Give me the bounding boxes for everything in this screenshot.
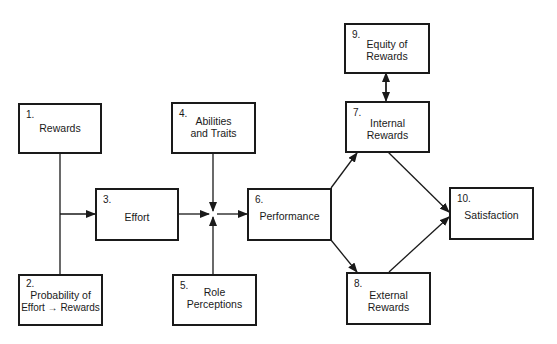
node-abilities-traits: 4. Abilities and Traits <box>171 102 256 154</box>
node-effort: 3. Effort <box>95 188 179 241</box>
arrow-external-to-satisfaction <box>389 217 449 272</box>
node-number: 10. <box>457 193 471 204</box>
node-internal-rewards: 7. Internal Rewards <box>345 101 430 153</box>
node-equity-of-rewards: 9. Equity of Rewards <box>344 23 430 74</box>
node-label-line2: Rewards <box>346 50 428 62</box>
node-label-line2: Perceptions <box>174 298 255 310</box>
node-label: Performance <box>249 210 330 222</box>
arrow-internal-to-satisfaction <box>388 152 449 212</box>
node-label-line1: External <box>348 289 429 301</box>
node-label-line2: Effort → Rewards <box>20 302 101 314</box>
node-label-line1: Abilities <box>173 115 254 127</box>
node-performance: 6. Performance <box>247 188 332 241</box>
node-label-line2: Rewards <box>347 129 428 141</box>
node-probability-effort-rewards: 2. Probability of Effort → Rewards <box>18 274 103 326</box>
node-satisfaction: 10. Satisfaction <box>449 187 534 240</box>
node-label: Rewards <box>20 122 100 134</box>
node-number: 8. <box>354 278 362 289</box>
node-number: 6. <box>255 194 263 205</box>
node-label-line1: Internal <box>347 117 428 129</box>
node-label-line2: and Traits <box>173 127 254 139</box>
arrow-performance-to-internal <box>331 153 357 188</box>
node-label-line1: Probability of <box>20 289 101 301</box>
node-number: 2. <box>26 278 34 289</box>
node-label-line1: Equity of <box>346 38 428 50</box>
arrow-performance-to-external <box>331 240 357 272</box>
node-label-line1: Role <box>174 286 255 298</box>
node-label-line2: Rewards <box>348 301 429 313</box>
node-number: 1. <box>26 109 34 120</box>
node-rewards: 1. Rewards <box>18 103 102 154</box>
node-label: Effort <box>97 211 177 223</box>
node-number: 3. <box>103 194 111 205</box>
node-label: Satisfaction <box>451 209 532 221</box>
node-role-perceptions: 5. Role Perceptions <box>172 274 257 326</box>
node-external-rewards: 8. External Rewards <box>346 272 431 325</box>
